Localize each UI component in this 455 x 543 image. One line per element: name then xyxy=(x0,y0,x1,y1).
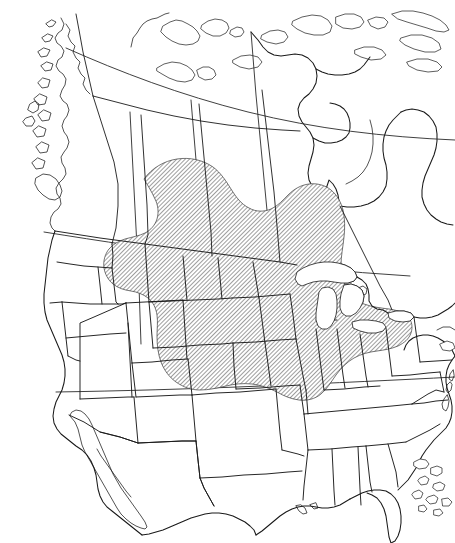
map-canvas xyxy=(0,0,455,543)
range-distribution-map xyxy=(0,0,455,543)
